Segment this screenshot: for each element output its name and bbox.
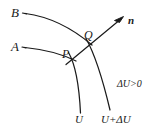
label-normal-vector-n: n [128, 15, 134, 26]
ray-a-tick [22, 47, 26, 48]
label-equipotential-u-plus-delta-u: U+ΔU [101, 114, 131, 125]
label-point-p: P [62, 48, 69, 60]
figure-container: B A P Q n ΔU>0 U U+ΔU [0, 0, 163, 132]
label-point-q: Q [84, 29, 93, 41]
label-curve-b: B [11, 6, 19, 19]
label-equipotential-u: U [75, 114, 83, 125]
normal-vector-line [66, 19, 122, 65]
label-potential-difference: ΔU>0 [117, 79, 142, 89]
normal-vector-arrowhead [115, 17, 124, 23]
ray-curve-b [26, 14, 93, 46]
equipotential-curve-u-plus-du [86, 39, 110, 111]
ray-b-tick [23, 13, 27, 14]
label-curve-a: A [11, 40, 19, 53]
